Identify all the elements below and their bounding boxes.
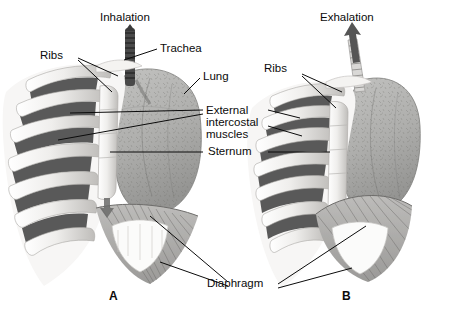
panel-a-title: Inhalation (100, 11, 150, 23)
label-ribs-right: Ribs (264, 62, 287, 74)
label-external-intercostal-line2: intercostal (206, 116, 258, 128)
label-lung: Lung (203, 70, 229, 82)
diaphragm-b (316, 191, 412, 284)
panel-marker-a: A (109, 290, 118, 302)
panel-a-illustration (3, 24, 208, 286)
label-trachea: Trachea (160, 42, 202, 54)
panel-b-title: Exhalation (320, 11, 374, 23)
label-diaphragm: Diaphragm (207, 277, 263, 289)
label-ribs-left: Ribs (40, 49, 63, 61)
label-external-intercostal-line3: muscles (206, 128, 248, 140)
respiration-diagram: Inhalation Exhalation Ribs Trachea Lung … (0, 0, 451, 328)
label-external-intercostal-line1: External (206, 104, 248, 116)
panel-marker-b: B (342, 290, 351, 302)
diaphragm-a (96, 198, 198, 286)
label-sternum: Sternum (208, 145, 251, 157)
